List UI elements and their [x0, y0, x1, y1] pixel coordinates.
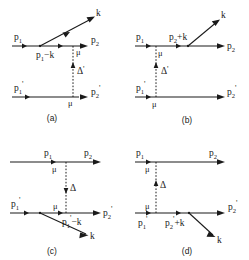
lower-internal-arrow-c	[58, 211, 63, 216]
diagram-panel-d: p1 p2 μ Δ μ p1' p2' p2'+k k (d)	[125, 130, 249, 260]
label-mu-bottom-b: μ	[152, 99, 157, 109]
lower-outgoing-arrow-d	[217, 210, 225, 216]
diagram-panel-a: p1 p2 p1−k k μ μ Δ' p1' p2' (a)	[0, 0, 124, 130]
lower-outgoing-arrow-c	[93, 210, 101, 216]
lower-internal-arrow-d	[176, 211, 181, 216]
label-p1prime-b: p1'	[136, 80, 146, 95]
lower-incoming-arrow-b	[146, 95, 151, 100]
label-mu-top-a: μ	[76, 47, 81, 57]
emitted-photon-arrow-a	[87, 17, 96, 23]
label-k-d: k	[217, 235, 222, 245]
label-delta-c: Δ	[70, 183, 76, 193]
label-mu-bottom-a: μ	[68, 98, 73, 108]
label-delta-b: Δ'	[161, 65, 169, 76]
label-mu-bottom-d: μ	[145, 201, 150, 211]
caption-b: (b)	[182, 115, 193, 125]
label-k-b: k	[221, 10, 226, 20]
label-p2-a: p2	[91, 35, 99, 47]
exchange-propagator-arrow-b	[154, 62, 159, 68]
label-k-c: k	[90, 231, 95, 241]
label-p2-b: p2	[227, 41, 235, 53]
label-p2-c: p2	[84, 148, 92, 160]
label-p2prime-d: p2'	[228, 199, 238, 214]
label-p2-d: p2	[209, 148, 217, 160]
caption-d: (d)	[182, 246, 193, 256]
upper-internal-arrow-a	[58, 44, 63, 49]
label-mu-bottom-c: μ	[53, 201, 58, 211]
feynman-diagram-figure: p1 p2 p1−k k μ μ Δ' p1' p2' (a)	[0, 0, 249, 260]
label-p1prime-c: p1'	[11, 196, 21, 211]
label-k-a: k	[96, 8, 101, 18]
label-internal-momentum-a: p1−k	[36, 50, 54, 62]
label-p1prime-d: p1'	[138, 215, 148, 230]
label-p2prime-a: p2'	[91, 84, 101, 99]
diagram-panel-b: p1 p2 p2+k k μ μ Δ' p1' p2' (b)	[125, 0, 249, 130]
label-delta-a: Δ'	[77, 65, 85, 76]
label-p2prime-c: p2'	[103, 205, 113, 220]
exchange-propagator-arrow-c	[64, 188, 69, 194]
diagram-b-canvas: p1 p2 p2+k k μ μ Δ' p1' p2' (b)	[125, 0, 249, 130]
label-mu-top-d: μ	[145, 164, 150, 174]
label-p1prime-a: p1'	[14, 80, 24, 95]
upper-incoming-arrow-b	[146, 44, 151, 49]
lower-incoming-arrow-c	[24, 211, 29, 216]
label-internal-momentum-b: p2+k	[169, 32, 187, 44]
lower-incoming-arrow-a	[25, 95, 30, 100]
diagram-panel-c: p1 p2 μ Δ μ p1' p2' p1'−k k (c)	[0, 130, 124, 260]
emitted-photon-midarrow-a	[63, 32, 71, 38]
caption-a: (a)	[47, 113, 58, 123]
label-p1-c: p1	[44, 148, 52, 160]
label-p1-a: p1	[14, 32, 22, 44]
lower-outgoing-arrow-b	[217, 94, 225, 100]
label-internal-momentum-c: p1'−k	[62, 214, 82, 229]
exchange-propagator-arrow-a	[71, 62, 76, 68]
emitted-photon-line-b	[188, 21, 218, 46]
diagram-a-canvas: p1 p2 p1−k k μ μ Δ' p1' p2' (a)	[0, 0, 124, 130]
upper-outgoing-arrow-b	[217, 43, 225, 49]
upper-incoming-arrow-a	[22, 44, 27, 49]
label-mu-top-b: μ	[158, 48, 163, 58]
upper-internal-arrow-b	[176, 44, 181, 49]
diagram-d-canvas: p1 p2 μ Δ μ p1' p2' p2'+k k (d)	[125, 130, 249, 260]
emitted-photon-line-d	[189, 213, 213, 235]
emitted-photon-arrow-d	[207, 232, 216, 237]
label-delta-d: Δ	[160, 180, 166, 190]
label-mu-top-c: μ	[52, 164, 57, 174]
upper-outgoing-arrow-d	[217, 159, 225, 165]
label-p1-b: p1	[136, 32, 144, 44]
upper-outgoing-arrow-c	[93, 159, 101, 165]
exchange-propagator-arrow-d	[154, 180, 159, 186]
diagram-c-canvas: p1 p2 μ Δ μ p1' p2' p1'−k k (c)	[0, 130, 124, 260]
label-internal-momentum-d: p2'+k	[165, 215, 185, 230]
label-p2prime-b: p2'	[227, 84, 237, 99]
lower-outgoing-arrow-a	[80, 94, 88, 100]
label-p1-d: p1	[136, 148, 144, 160]
caption-c: (c)	[47, 246, 57, 256]
emitted-photon-line-a	[40, 18, 93, 46]
